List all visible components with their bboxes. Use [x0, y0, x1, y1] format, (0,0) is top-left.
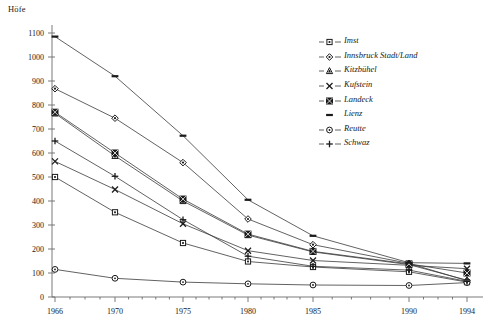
x-tick-label: 1970	[107, 307, 123, 316]
data-point	[52, 36, 59, 38]
legend-marker-square-open-icon	[318, 34, 344, 46]
legend-label: Innsbruck Stadt/Land	[344, 50, 417, 60]
data-point	[464, 262, 471, 264]
legend-label: Lienz	[344, 108, 362, 118]
series-line	[55, 177, 467, 282]
legend-marker	[327, 98, 333, 104]
data-point	[310, 282, 316, 288]
x-tick-label: 1980	[240, 307, 256, 316]
x-tick-label: 1966	[47, 307, 63, 316]
legend-label: Kufstein	[344, 79, 372, 89]
data-point	[112, 75, 119, 77]
data-point	[245, 259, 250, 264]
legend-marker-triangle-icon	[318, 63, 344, 75]
data-point	[112, 186, 118, 192]
x-tick-label: 1990	[401, 307, 417, 316]
data-point	[406, 262, 413, 264]
y-tick-label: 300	[32, 221, 44, 230]
legend-item-schwaz[interactable]: Schwaz	[318, 135, 478, 150]
data-point	[112, 115, 119, 122]
y-tick-label: 600	[32, 149, 44, 158]
data-point	[310, 235, 317, 237]
data-point	[245, 231, 251, 237]
data-point	[310, 241, 317, 248]
data-point	[52, 174, 57, 179]
legend-marker	[326, 54, 333, 61]
y-tick-label: 1100	[28, 29, 44, 38]
data-point	[406, 283, 412, 289]
data-point	[112, 275, 118, 281]
legend-marker-cross-x-icon	[318, 78, 344, 90]
y-tick-label: 700	[32, 125, 44, 134]
legend-label: Reutte	[344, 123, 366, 133]
legend-label: Kitzbühel	[344, 64, 377, 74]
legend-marker-diamond-icon	[318, 49, 344, 61]
legend-label: Landeck	[344, 94, 373, 104]
y-tick-label: 900	[32, 77, 44, 86]
legend-marker	[326, 141, 333, 148]
x-tick-label: 1994	[459, 307, 475, 316]
y-tick-label: 400	[32, 197, 44, 206]
data-point	[180, 196, 186, 202]
x-tick-label: 1985	[305, 307, 321, 316]
chart-legend: ImstInnsbruck Stadt/LandKitzbühelKufstei…	[318, 33, 478, 150]
data-point	[52, 267, 58, 273]
y-tick-label: 800	[32, 101, 44, 110]
legend-marker	[327, 127, 333, 133]
legend-item-lienz[interactable]: Lienz	[318, 106, 478, 121]
legend-marker	[327, 40, 332, 45]
data-point	[112, 150, 118, 156]
legend-marker-plus-icon	[318, 136, 344, 148]
data-point	[112, 210, 117, 215]
data-point	[52, 138, 59, 145]
legend-marker	[326, 68, 332, 74]
data-point	[52, 158, 58, 164]
data-point	[180, 240, 185, 245]
legend-marker-dash-icon	[318, 107, 344, 119]
data-point	[245, 281, 251, 287]
data-point	[52, 109, 58, 115]
y-tick-label: 500	[32, 173, 44, 182]
legend-label: Imst	[344, 35, 359, 45]
legend-item-landeck[interactable]: Landeck	[318, 91, 478, 106]
legend-item-imst[interactable]: Imst	[318, 33, 478, 48]
y-tick-label: 200	[32, 245, 44, 254]
data-point	[310, 248, 316, 254]
data-point	[52, 85, 59, 92]
legend-marker	[327, 83, 333, 89]
legend-item-innsbruck-stadt-land[interactable]: Innsbruck Stadt/Land	[318, 48, 478, 63]
y-tick-label: 0	[40, 293, 44, 302]
legend-item-kitzb-hel[interactable]: Kitzbühel	[318, 62, 478, 77]
legend-item-reutte[interactable]: Reutte	[318, 121, 478, 136]
chart-container: Höfe 01002003004005006007008009001000110…	[0, 0, 488, 323]
y-tick-label: 100	[32, 269, 44, 278]
data-point	[112, 173, 119, 180]
data-point	[464, 270, 470, 276]
x-tick-label: 1975	[175, 307, 191, 316]
data-point	[180, 279, 186, 285]
legend-marker-circle-open-icon	[318, 122, 344, 134]
legend-label: Schwaz	[344, 137, 370, 147]
legend-marker-square-x-icon	[318, 93, 344, 105]
legend-marker	[326, 114, 333, 116]
data-point	[245, 199, 252, 201]
legend-item-kufstein[interactable]: Kufstein	[318, 77, 478, 92]
data-point	[180, 135, 187, 137]
y-tick-label: 1000	[28, 53, 44, 62]
